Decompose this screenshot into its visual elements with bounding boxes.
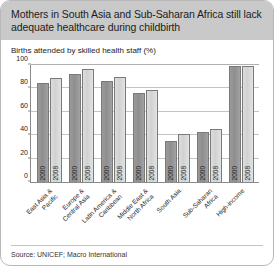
bar-group: 20002008 [65,65,97,182]
bar: 2000 [229,66,241,182]
bar: 2008 [242,66,254,182]
bar: 2000 [133,93,145,182]
bar-year-label: 2000 [71,166,78,180]
page-title: Mothers in South Asia and Sub-Saharan Af… [11,8,263,34]
bar: 2000 [37,83,49,182]
y-axis-tick-label: 40 [20,125,28,132]
chart-subtitle: Births attended by skilled health staff … [11,46,263,55]
card-footer: Source: UNICEF; Macro International [1,245,273,265]
bar: 2000 [165,141,177,182]
bar: 2008 [82,69,94,182]
bar: 2008 [210,129,222,182]
x-axis-label-cell: Middle East &North Africa [128,186,160,222]
footer-divider [11,245,263,246]
y-axis-tick-label: 20 [20,148,28,155]
bar-group: 20002008 [97,65,129,182]
bar: 2000 [197,132,209,182]
bar-year-label: 2000 [231,166,238,180]
bar-group: 20002008 [225,65,257,182]
bar-year-label: 2008 [148,166,155,180]
bar-group: 20002008 [193,65,225,182]
x-axis-label-cell: High-income [225,186,257,222]
y-axis-tick-label: 0 [24,172,28,179]
bar: 2000 [69,74,81,182]
bar: 2008 [146,90,158,182]
bar-year-label: 2008 [116,166,123,180]
bar: 2000 [101,81,113,182]
chart-subtitle-container: Births attended by skilled health staff … [1,40,273,57]
bar-year-label: 2008 [212,166,219,180]
card-header: Mothers in South Asia and Sub-Saharan Af… [1,1,273,40]
y-axis-tick-label: 80 [20,78,28,85]
chart-bars: 2000200820002008200020082000200820002008… [31,65,259,182]
x-axis-category-label: East Asia &Pacific [25,187,59,221]
bar-year-label: 2000 [167,166,174,180]
bar-year-label: 2008 [244,166,251,180]
chart-x-axis-labels: East Asia &PacificEurope &Central AsiaLa… [30,186,259,222]
bar-year-label: 2008 [180,166,187,180]
y-axis-tick-label: 60 [20,101,28,108]
bar-year-label: 2008 [84,166,91,180]
chart-axes: 020406080100 200020082000200820002008200… [30,65,259,183]
bar: 2008 [114,77,126,182]
bar-year-label: 2000 [39,166,46,180]
bar-group: 20002008 [161,65,193,182]
source-note: Source: UNICEF; Macro International [11,251,263,258]
bar-group: 20002008 [129,65,161,182]
bar: 2008 [178,134,190,182]
bar-year-label: 2000 [103,166,110,180]
bar-year-label: 2000 [199,166,206,180]
bar-group: 20002008 [33,65,65,182]
bar-year-label: 2000 [135,166,142,180]
bar-year-label: 2008 [52,166,59,180]
bar: 2008 [50,78,62,182]
chart-card: Mothers in South Asia and Sub-Saharan Af… [0,0,274,266]
chart-plot-area: 020406080100 200020082000200820002008200… [9,59,265,221]
